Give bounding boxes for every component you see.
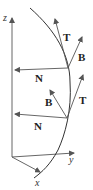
- lower-normal-label: N: [34, 120, 42, 132]
- lower-binormal-label: B: [45, 96, 53, 108]
- z-axis-label: z: [2, 12, 7, 23]
- lower-binormal-vector: [50, 90, 67, 118]
- upper-normal-label: N: [35, 72, 43, 84]
- upper-binormal-label: B: [78, 51, 86, 63]
- x-axis-label: x: [34, 177, 40, 188]
- y-axis: [12, 153, 74, 157]
- y-axis-label: y: [68, 154, 74, 165]
- upper-normal-vector: [15, 68, 68, 70]
- upper-tangent-label: T: [63, 31, 71, 43]
- lower-normal-vector: [15, 114, 67, 118]
- x-axis: [12, 157, 40, 172]
- tnb-frame-diagram: z y x T B N T B N: [0, 0, 93, 190]
- lower-tangent-label: T: [79, 94, 87, 106]
- upper-tangent-vector: [55, 19, 68, 68]
